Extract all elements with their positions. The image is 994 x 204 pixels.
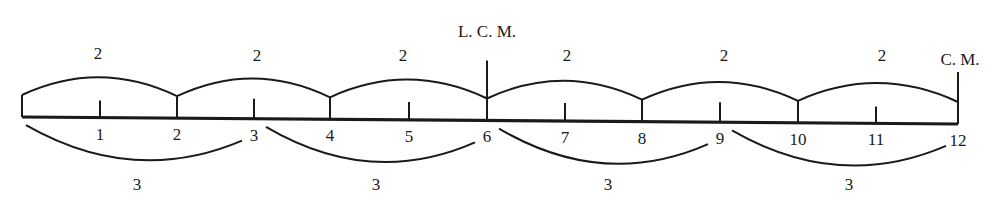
beat-number-label: 11 bbox=[868, 130, 884, 149]
group-of-two-arc bbox=[798, 83, 958, 102]
group-of-two-label: 2 bbox=[720, 46, 729, 65]
beat-number-label: 2 bbox=[173, 125, 182, 144]
rhythm-diagram: 123456789101112 222222 3333 L. C. M. C. … bbox=[0, 0, 994, 204]
group-of-two-label: 2 bbox=[94, 44, 103, 63]
beat-number-label: 8 bbox=[638, 129, 647, 148]
beat-number-label: 1 bbox=[96, 125, 105, 144]
upper-groupings-of-two: 222222 bbox=[22, 44, 958, 102]
beat-number-label: 9 bbox=[716, 129, 725, 148]
beat-number-label: 4 bbox=[326, 126, 335, 145]
group-of-two-arc bbox=[177, 78, 330, 97]
group-of-three-label: 3 bbox=[845, 175, 854, 194]
beat-number-label: 12 bbox=[950, 131, 967, 150]
tick-marks: 123456789101112 bbox=[22, 60, 967, 150]
group-of-three-arc bbox=[26, 125, 242, 160]
beat-number-label: 3 bbox=[250, 126, 259, 145]
group-of-three-label: 3 bbox=[133, 175, 142, 194]
beat-number-label: 5 bbox=[405, 127, 414, 146]
baseline bbox=[22, 117, 958, 124]
group-of-two-label: 2 bbox=[563, 46, 572, 65]
group-of-two-arc bbox=[22, 77, 177, 96]
group-of-three-arc bbox=[266, 127, 475, 162]
group-of-two-label: 2 bbox=[878, 46, 887, 65]
group-of-two-arc bbox=[487, 81, 642, 100]
group-of-two-arc bbox=[330, 80, 487, 99]
group-of-three-label: 3 bbox=[604, 175, 613, 194]
cm-label: C. M. bbox=[940, 50, 979, 69]
group-of-three-label: 3 bbox=[372, 175, 381, 194]
group-of-two-label: 2 bbox=[253, 46, 262, 65]
group-of-three-arc bbox=[732, 130, 946, 165]
baseline-line bbox=[22, 117, 958, 124]
beat-number-label: 6 bbox=[483, 127, 492, 146]
group-of-two-label: 2 bbox=[399, 46, 408, 65]
group-of-two-arc bbox=[642, 82, 798, 101]
group-of-three-arc bbox=[499, 129, 708, 164]
lcm-label: L. C. M. bbox=[458, 22, 516, 41]
beat-number-label: 10 bbox=[790, 130, 807, 149]
beat-number-label: 7 bbox=[561, 128, 570, 147]
